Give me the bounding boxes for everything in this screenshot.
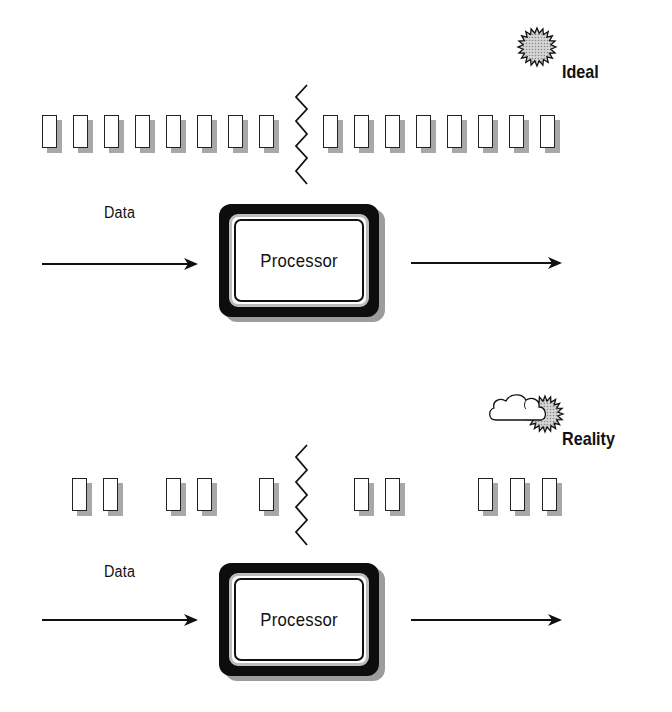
data-label: Data — [104, 204, 135, 222]
data-packet — [166, 478, 181, 511]
data-packet — [385, 115, 400, 148]
data-packet — [197, 478, 212, 511]
sun-icon — [518, 28, 556, 66]
data-packet — [104, 115, 119, 148]
data-packet — [323, 115, 338, 148]
data-packet — [166, 115, 181, 148]
data-label: Data — [104, 563, 135, 581]
data-packet — [447, 115, 462, 148]
data-packet — [73, 115, 88, 148]
data-packet — [259, 115, 274, 148]
data-packet — [72, 478, 87, 511]
data-packet — [354, 478, 369, 511]
data-packet — [510, 478, 525, 511]
data-packet — [509, 115, 524, 148]
data-packet — [354, 115, 369, 148]
processor-label: Processor — [260, 609, 338, 631]
processor-box: Processor — [219, 204, 379, 317]
processor-box: Processor — [219, 563, 379, 676]
reality-heading: Reality — [562, 428, 615, 450]
data-packet — [135, 115, 150, 148]
data-packet — [542, 478, 557, 511]
data-packet — [540, 115, 555, 148]
data-packet — [416, 115, 431, 148]
processor-label: Processor — [260, 250, 338, 272]
stream-break-zigzag — [296, 445, 307, 545]
ideal-heading: Ideal — [562, 61, 599, 83]
data-packet — [197, 115, 212, 148]
data-packet — [385, 478, 400, 511]
data-packet — [228, 115, 243, 148]
data-packet — [478, 478, 493, 511]
data-packet — [103, 478, 118, 511]
data-packet — [42, 115, 57, 148]
data-packet — [259, 478, 274, 511]
cloud-icon — [490, 395, 546, 420]
data-packet — [478, 115, 493, 148]
stream-break-zigzag — [296, 85, 307, 184]
